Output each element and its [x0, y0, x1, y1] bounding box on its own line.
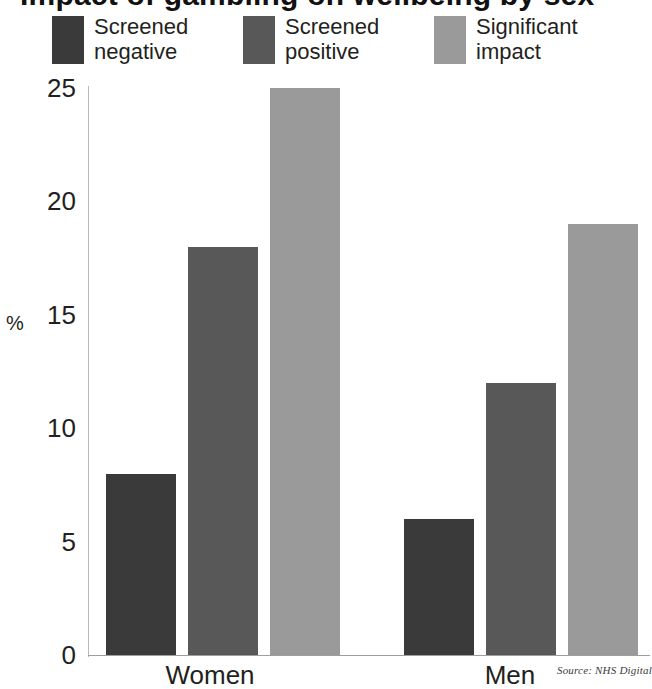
- y-axis-tick-label: 20: [14, 188, 76, 214]
- y-axis-tick-label: 5: [14, 529, 76, 555]
- y-axis-tick-label: 0: [14, 642, 76, 668]
- bar-men-screened-negative[interactable]: [404, 519, 474, 655]
- bar-women-screened-negative[interactable]: [106, 474, 176, 655]
- bar-series-group: [88, 0, 650, 689]
- source-note: Source: NHS Digital: [557, 664, 652, 676]
- bar-men-significant-impact[interactable]: [568, 224, 638, 655]
- y-axis-tick-label: 10: [14, 415, 76, 441]
- bar-men-screened-positive[interactable]: [486, 383, 556, 655]
- y-axis-tick-label: 15: [14, 302, 76, 328]
- bar-women-screened-positive[interactable]: [188, 247, 258, 655]
- y-axis-tick-label: 25: [14, 75, 76, 101]
- x-axis-tick-women: Women: [120, 660, 300, 689]
- bar-women-significant-impact[interactable]: [270, 88, 340, 655]
